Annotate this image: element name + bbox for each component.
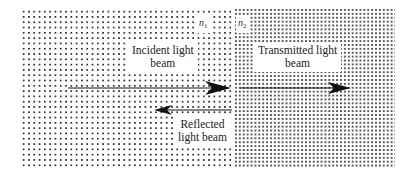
incident-beam-label: Incident light beam <box>128 42 198 72</box>
index-subscript: 1 <box>204 22 208 30</box>
transmitted-label-line1: Transmitted light <box>258 44 337 57</box>
refraction-diagram: n1 n2 Incident light beam Transmitted li… <box>0 0 413 181</box>
index-subscript: 2 <box>243 22 247 30</box>
reflected-label-line1: Reflected <box>178 118 227 131</box>
transmitted-beam-label: Transmitted light beam <box>254 42 341 72</box>
index-label-n1: n1 <box>197 16 210 33</box>
incident-label-line2: beam <box>132 57 194 70</box>
medium-n2-region <box>234 8 395 167</box>
reflected-label-line2: light beam <box>178 131 227 144</box>
incident-label-line1: Incident light <box>132 44 194 57</box>
transmitted-label-line2: beam <box>258 57 337 70</box>
index-label-n2: n2 <box>236 16 249 33</box>
reflected-beam-label: Reflected light beam <box>174 116 231 146</box>
